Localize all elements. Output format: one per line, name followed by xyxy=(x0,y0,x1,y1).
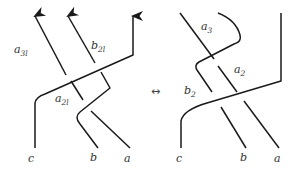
strand-b-right-bottom xyxy=(221,107,246,148)
strand-a-right-top xyxy=(180,13,214,59)
strand-a-left-bottom xyxy=(91,111,130,148)
endpoint-c-right: c xyxy=(176,152,182,165)
strand-a-left-mid xyxy=(71,81,83,100)
endpoint-c-left: c xyxy=(28,152,34,165)
endpoint-a-right: a xyxy=(274,152,281,165)
endpoint-b-right: b xyxy=(240,151,247,164)
label-a2l: a2l xyxy=(55,92,69,107)
braid-diagram: a3l b2l a2l c b a ↔ a3 a2 b2 c b a xyxy=(0,0,296,171)
endpoint-b-left: b xyxy=(90,151,97,164)
equivalence-symbol: ↔ xyxy=(151,85,160,98)
label-a2: a2 xyxy=(234,63,246,78)
label-a3l: a3l xyxy=(14,43,28,58)
strand-c-right xyxy=(181,13,281,148)
endpoint-a-left: a xyxy=(124,152,131,165)
strand-a-right-bottom xyxy=(244,101,279,148)
label-a3: a3 xyxy=(201,20,213,35)
label-b2l: b2l xyxy=(91,39,106,54)
left-braid: a3l b2l a2l c b a xyxy=(14,16,133,165)
strand-a-left-top xyxy=(35,16,66,75)
strand-b-left-bottom xyxy=(77,72,110,148)
right-braid: a3 a2 b2 c b a xyxy=(176,13,281,165)
label-b2: b2 xyxy=(184,84,196,99)
